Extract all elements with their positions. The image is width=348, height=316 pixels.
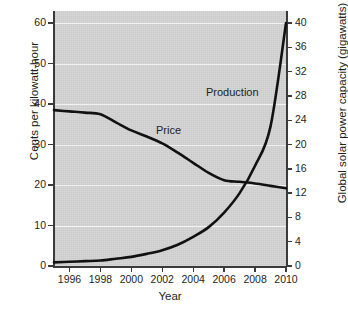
tick-mark-left — [48, 103, 53, 104]
series-label-production: Production — [206, 86, 259, 98]
tick-mark-right — [287, 168, 292, 169]
tick-label-right: 0 — [295, 260, 301, 271]
tick-label-right: 8 — [295, 211, 301, 222]
tick-label-bottom: 1998 — [89, 274, 112, 285]
tick-label-right: 40 — [295, 17, 307, 28]
tick-label-bottom: 2006 — [212, 274, 235, 285]
tick-mark-right — [287, 47, 292, 48]
tick-label-bottom: 2002 — [151, 274, 174, 285]
tick-mark-right — [287, 265, 292, 266]
tick-mark-bottom — [223, 267, 224, 272]
tick-label-right: 28 — [295, 90, 307, 101]
data-series-layer — [54, 11, 286, 266]
tick-mark-bottom — [254, 267, 255, 272]
tick-label-bottom: 2008 — [243, 274, 266, 285]
tick-mark-bottom — [193, 267, 194, 272]
axis-spine-bottom — [53, 266, 287, 268]
tick-mark-right — [287, 192, 292, 193]
tick-label-right: 32 — [295, 66, 307, 77]
tick-label-left: 0 — [40, 260, 46, 271]
tick-label-bottom: 1996 — [58, 274, 81, 285]
tick-mark-right — [287, 22, 292, 23]
tick-mark-bottom — [131, 267, 132, 272]
axis-title-bottom: Year — [54, 290, 286, 302]
tick-mark-left — [48, 144, 53, 145]
tick-mark-right — [287, 120, 292, 121]
tick-label-left: 10 — [34, 220, 46, 231]
tick-label-right: 20 — [295, 139, 307, 150]
tick-mark-bottom — [100, 267, 101, 272]
tick-mark-right — [287, 241, 292, 242]
tick-mark-left — [48, 63, 53, 64]
tick-label-right: 12 — [295, 187, 307, 198]
tick-label-right: 24 — [295, 114, 307, 125]
tick-mark-bottom — [285, 267, 286, 272]
axis-spine-right — [286, 11, 288, 267]
tick-mark-left — [48, 225, 53, 226]
tick-label-bottom: 2000 — [120, 274, 143, 285]
series-label-price: Price — [156, 124, 181, 136]
axis-title-left: Cents per kilowatt-hour — [28, 0, 40, 211]
tick-mark-left — [48, 265, 53, 266]
series-line-production — [54, 23, 286, 262]
tick-mark-bottom — [162, 267, 163, 272]
tick-label-bottom: 2010 — [274, 274, 297, 285]
tick-mark-bottom — [69, 267, 70, 272]
tick-mark-right — [287, 217, 292, 218]
tick-mark-right — [287, 144, 292, 145]
tick-mark-left — [48, 184, 53, 185]
tick-label-right: 16 — [295, 163, 307, 174]
tick-mark-right — [287, 71, 292, 72]
tick-label-right: 4 — [295, 236, 301, 247]
tick-mark-right — [287, 95, 292, 96]
series-line-price — [54, 110, 286, 188]
tick-label-right: 36 — [295, 41, 307, 52]
tick-label-bottom: 2004 — [182, 274, 205, 285]
tick-mark-left — [48, 22, 53, 23]
axis-title-right: Global solar power capacity (gigawatts) — [336, 0, 348, 223]
